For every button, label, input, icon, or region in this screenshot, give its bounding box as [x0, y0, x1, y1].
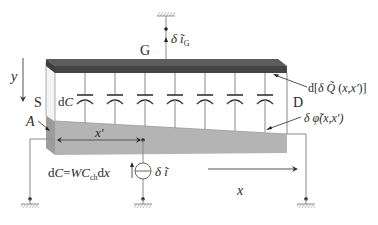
charge-pointer	[275, 75, 307, 87]
x-axis-label: x	[236, 183, 244, 198]
source-label: S	[34, 95, 42, 110]
capacitor	[77, 73, 93, 123]
gate-label: G	[140, 43, 150, 58]
node-dot	[164, 27, 168, 31]
ground-icon	[21, 204, 39, 208]
current-arrow-icon	[164, 37, 168, 42]
ground-icon	[157, 12, 175, 16]
capacitor	[107, 73, 123, 124]
mosfet-noise-diagram: δĩG G y S dC D d[δ Q̃ (x,x′)] δ φ̃(x,x′)…	[0, 0, 378, 225]
potential-pointer	[268, 117, 301, 129]
point-a-label: A	[25, 114, 35, 129]
x-prime-label: x′	[94, 125, 104, 140]
x-axis-arrow	[208, 166, 298, 172]
y-axis-label: y	[9, 69, 18, 84]
capacitor-row	[77, 73, 273, 132]
ground-icon	[297, 204, 315, 208]
capacitance-label: dC	[58, 94, 74, 109]
channel-slab	[46, 116, 287, 155]
capacitor	[227, 73, 243, 131]
current-arrow-icon	[130, 162, 134, 167]
ground-icon	[134, 204, 152, 208]
charge-label: d[δ Q̃ (x,x′)]	[308, 81, 367, 95]
gate-current-label: δĩG	[171, 31, 190, 48]
drain-label: D	[293, 95, 303, 110]
capacitance-formula: dC=WCchdx	[48, 165, 110, 182]
potential-label: δ φ̃(x,x′)	[304, 111, 344, 125]
noise-current-label: δ ĩ	[155, 164, 169, 179]
capacitor	[257, 73, 273, 132]
capacitor	[137, 73, 153, 126]
capacitor	[167, 73, 183, 128]
y-axis-arrow	[20, 58, 26, 102]
gate-electrode	[46, 59, 287, 73]
drain-ground	[287, 134, 315, 208]
capacitor	[197, 73, 213, 129]
